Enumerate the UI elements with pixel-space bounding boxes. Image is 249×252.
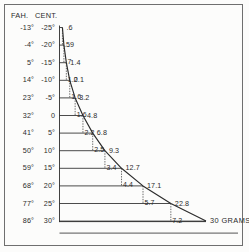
axis-label-centigrade: -5° [37,94,55,101]
axis-label-centigrade: -25° [37,24,55,31]
axis-label-centigrade: -15° [37,59,55,66]
axis-label-fahrenheit: 23° [10,94,34,101]
bar-midpoint-label: 2.2 [84,129,94,136]
axis-label-centigrade: 5° [37,129,55,136]
bar-midpoint-label: .7 [65,58,71,65]
header-fahrenheit: FAH. [11,12,28,19]
header-centigrade: CENT. [35,12,57,19]
figure-page: FAH.CENT.-13°-4°5°14°23°32°41°50°59°68°7… [0,0,249,252]
units-label: 30 GRAMS [210,217,249,224]
axis-label-centigrade: -20° [37,41,55,48]
axis-label-fahrenheit: 41° [10,129,34,136]
bar-midpoint-label: 1.0 [68,76,78,83]
bar-midpoint-label: 4.4 [123,181,133,188]
axis-label-fahrenheit: -4° [10,41,34,48]
axis-label-fahrenheit: 50° [10,147,34,154]
axis-label-fahrenheit: 32° [10,112,34,119]
bar-value-label: .6 [66,24,72,31]
bar-midpoint-label: 3.4 [106,164,116,171]
chart-plot [0,0,249,252]
axis-label-fahrenheit: -13° [10,24,34,31]
bar-midpoint-label: 1.6 [77,111,87,118]
bar-value-label: 9.3 [109,147,119,154]
bar-midpoint-label: 7.2 [172,217,182,224]
axis-label-fahrenheit: 59° [10,164,34,171]
axis-label-fahrenheit: 68° [10,182,34,189]
bar-value-label: 1.4 [70,59,80,66]
axis-label-fahrenheit: 86° [10,217,34,224]
bar-midpoint-label: .5 [64,41,70,48]
axis-label-centigrade: 15° [37,164,55,171]
bar-value-label: 17.1 [147,182,161,189]
axis-label-fahrenheit: 77° [10,200,34,207]
bar-value-label: 22.8 [175,200,189,207]
axis-label-centigrade: 30° [37,217,55,224]
bar-midpoint-label: 1.6 [71,93,81,100]
axis-label-centigrade: 25° [37,200,55,207]
axis-label-centigrade: -10° [37,76,55,83]
bar-value-label: 12.7 [126,164,140,171]
axis-label-centigrade: 10° [37,147,55,154]
axis-label-centigrade: 20° [37,182,55,189]
axis-label-fahrenheit: 14° [10,76,34,83]
bar-value-label: 6.8 [97,129,107,136]
axis-label-centigrade: 0 [37,112,55,119]
axis-label-fahrenheit: 5° [10,59,34,66]
bar-midpoint-label: 5.7 [145,199,155,206]
bar-value-label: 4.8 [87,112,97,119]
saturation-curve [62,28,206,222]
bar-midpoint-label: 2.5 [94,146,104,153]
